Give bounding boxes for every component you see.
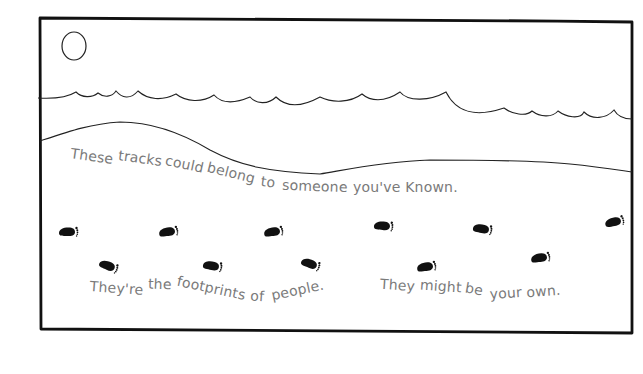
- caption-word: you've: [353, 179, 401, 195]
- caption-word: to: [259, 173, 276, 191]
- footprint-icon: [59, 227, 78, 237]
- illustration-canvas: These tracks could belong to someone you…: [0, 0, 643, 374]
- caption-line-1: These tracks could belong to someone you…: [70, 152, 458, 168]
- footprint-icon: [604, 215, 625, 229]
- caption-word: someone: [282, 177, 348, 195]
- caption-word: be: [464, 280, 484, 299]
- footprint-icon: [472, 222, 493, 235]
- caption-word: the: [148, 276, 172, 293]
- caption-word: your: [489, 284, 522, 302]
- caption-word: own.: [526, 282, 561, 300]
- caption-word: might: [419, 277, 462, 296]
- caption-word: They: [379, 276, 415, 294]
- footprint-icon: [158, 225, 179, 238]
- caption-line-3: They might be your own.: [380, 277, 560, 293]
- footprint-icon: [300, 256, 322, 272]
- caption-line-2: They're the footprints of people.: [90, 278, 323, 294]
- footprint-icon: [416, 260, 437, 273]
- caption-word: of: [250, 288, 265, 305]
- footprint-icon: [374, 220, 394, 232]
- footprint-icon: [202, 259, 223, 272]
- footprint-icon: [530, 251, 551, 264]
- footprint-icon: [263, 225, 284, 238]
- caption-word: Known.: [405, 179, 458, 195]
- footprint-icon: [98, 258, 120, 274]
